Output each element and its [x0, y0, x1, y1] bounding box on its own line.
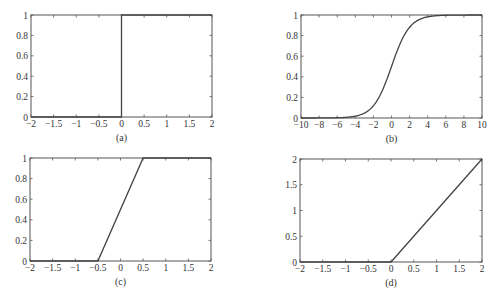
x-tick-label: 0	[119, 119, 124, 129]
x-tick-label: 8	[462, 120, 467, 130]
y-tick-label: 0.8	[286, 31, 298, 41]
y-tick-label: 0	[292, 258, 297, 268]
series-line-relu	[300, 159, 482, 262]
x-tick-label: 2	[480, 264, 485, 274]
x-tick-label: −0.5	[90, 119, 107, 129]
y-tick-label: 1.5	[285, 180, 297, 190]
y-tick-label: 0.5	[285, 232, 297, 242]
x-tick-label: 2	[210, 119, 215, 129]
x-tick-label: −1	[70, 263, 80, 273]
y-tick-label: 1	[293, 11, 298, 21]
x-tick-label: 10	[477, 120, 487, 130]
chart-panel-c: −2−1.5−1−0.500.511.5200.20.40.60.81(c)	[15, 154, 214, 289]
x-tick-label: −4	[350, 120, 360, 130]
x-tick-label: 0.5	[138, 119, 150, 129]
x-tick-label: 1	[164, 119, 169, 129]
series-line-step	[31, 15, 212, 117]
chart-panel-a: −2−1.5−1−0.500.511.5200.20.40.60.81(a)	[16, 11, 215, 145]
x-tick-label: −1.5	[314, 264, 331, 274]
x-tick-label: 0	[389, 264, 394, 274]
y-tick-label: 0.8	[16, 31, 28, 41]
series-line-piecewise-linear	[30, 158, 211, 261]
y-tick-label: 2	[292, 155, 297, 165]
x-tick-label: 0.5	[137, 263, 149, 273]
y-tick-label: 0.6	[15, 195, 27, 205]
x-tick-label: −0.5	[360, 264, 377, 274]
panel-caption: (b)	[386, 133, 398, 145]
x-tick-label: −1.5	[45, 119, 62, 129]
y-tick-label: 0.2	[286, 93, 298, 103]
x-tick-label: −2	[368, 120, 378, 130]
y-tick-label: 0.4	[286, 72, 298, 82]
x-tick-label: −0.5	[89, 263, 106, 273]
x-tick-label: 0	[389, 120, 394, 130]
x-tick-label: 6	[443, 120, 448, 130]
panel-caption: (c)	[115, 276, 126, 288]
y-tick-label: 0	[293, 114, 298, 124]
y-tick-label: 0.6	[286, 52, 298, 62]
x-tick-label: 1.5	[182, 263, 194, 273]
figure: −2−1.5−1−0.500.511.5200.20.40.60.81(a)−1…	[0, 0, 491, 301]
x-tick-label: 2	[407, 120, 412, 130]
y-tick-label: 1	[292, 206, 297, 216]
y-tick-label: 0.2	[15, 236, 27, 246]
chart-panel-d: −2−1.5−1−0.500.511.5200.511.52(d)	[285, 155, 485, 290]
panel-caption: (d)	[385, 277, 397, 289]
chart-panel-b: −10−8−6−4−2024681000.20.40.60.81(b)	[286, 11, 487, 146]
x-tick-label: −6	[332, 120, 342, 130]
y-tick-label: 0.6	[16, 51, 28, 61]
panel-caption: (a)	[116, 132, 127, 144]
x-tick-label: 0.5	[408, 264, 420, 274]
series-line-sigmoid	[301, 15, 482, 118]
axes-box	[300, 159, 482, 262]
x-tick-label: 1.5	[183, 119, 195, 129]
y-tick-label: 1	[23, 11, 28, 21]
x-tick-label: −8	[314, 120, 324, 130]
y-tick-label: 0.2	[16, 92, 28, 102]
x-tick-label: −1.5	[44, 263, 61, 273]
x-tick-label: −1	[340, 264, 350, 274]
x-tick-label: 4	[425, 120, 430, 130]
y-tick-label: 0	[22, 257, 27, 267]
y-tick-label: 0.8	[15, 174, 27, 184]
x-tick-label: 0	[118, 263, 123, 273]
x-tick-label: 1	[163, 263, 168, 273]
y-tick-label: 0.4	[15, 215, 27, 225]
x-tick-label: 1.5	[453, 264, 465, 274]
x-tick-label: −1	[71, 119, 81, 129]
y-tick-label: 0	[23, 113, 28, 123]
x-tick-label: 2	[209, 263, 214, 273]
y-tick-label: 1	[22, 154, 27, 164]
y-tick-label: 0.4	[16, 72, 28, 82]
x-tick-label: 1	[434, 264, 439, 274]
figure-canvas: −2−1.5−1−0.500.511.5200.20.40.60.81(a)−1…	[0, 0, 491, 301]
